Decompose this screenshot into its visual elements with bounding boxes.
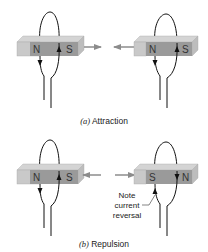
caption-a: (a) Attraction: [80, 116, 128, 126]
pole-label-n: N: [182, 172, 189, 183]
right-magnet-assembly: N S: [134, 14, 198, 108]
diagram-canvas: N S N S (: [0, 0, 208, 252]
pole-label-s: S: [182, 44, 189, 55]
current-arrow-down-icon: [38, 60, 43, 66]
right-magnet-assembly: S N: [134, 142, 198, 236]
bar-magnet: N S: [134, 36, 198, 56]
left-magnet-assembly: N S: [17, 12, 84, 108]
note-line-3: reversal: [113, 211, 142, 220]
current-arrow-down-icon: [153, 60, 158, 66]
pole-label-s: S: [66, 172, 73, 183]
panel-b: N S S N Note current: [17, 140, 198, 249]
left-magnet-assembly: N S: [17, 140, 84, 236]
note-line-2: current: [115, 201, 141, 210]
leader-line: [142, 195, 155, 205]
pole-label-n: N: [149, 44, 156, 55]
pole-label-s: S: [149, 172, 156, 183]
panel-a: N S N S (: [17, 12, 198, 126]
pole-label-n: N: [33, 172, 40, 183]
current-arrow-down-icon: [38, 188, 43, 194]
caption-b: (b) Repulsion: [79, 239, 129, 249]
current-arrow-up-icon: [153, 188, 158, 194]
bar-magnet: S N: [134, 164, 198, 184]
bar-magnet: N S: [17, 36, 84, 56]
bar-magnet: N S: [17, 164, 84, 184]
pole-label-n: N: [33, 44, 40, 55]
note-line-1: Note: [119, 191, 136, 200]
note-annotation: Note current reversal: [113, 191, 155, 220]
pole-label-s: S: [66, 44, 73, 55]
